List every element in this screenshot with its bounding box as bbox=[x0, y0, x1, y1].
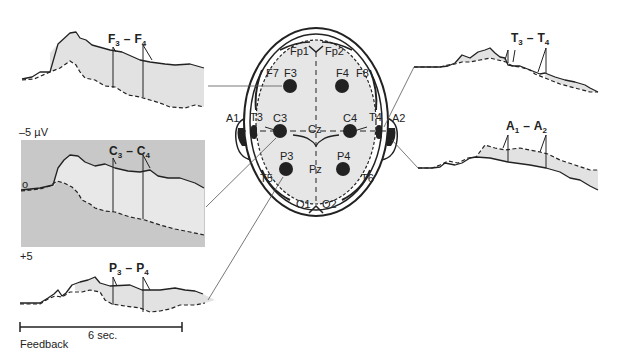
electrode-c3 bbox=[273, 124, 287, 138]
label-t5: T5 bbox=[260, 172, 273, 184]
trace-p3-p4: P3–P4 bbox=[20, 261, 215, 312]
label-o1: O1 bbox=[296, 198, 311, 210]
label-pz: Pz bbox=[309, 163, 322, 175]
label-t6: T6 bbox=[361, 172, 374, 184]
timescale-bar: 6 sec. Feedback bbox=[20, 322, 182, 350]
trace-t3-t4: T3–T4 bbox=[414, 31, 598, 92]
label-o2: O2 bbox=[322, 198, 337, 210]
electrode-p4 bbox=[336, 162, 350, 176]
label-c3-c4: C3–C4 bbox=[109, 144, 150, 160]
label-c3: C3 bbox=[273, 112, 287, 124]
label-f8: F8 bbox=[356, 67, 369, 79]
label-f7: F7 bbox=[266, 67, 279, 79]
label-p3: P3 bbox=[280, 150, 293, 162]
trace-f3-f4: F3–F4 bbox=[22, 32, 204, 108]
feedback-caption: Feedback bbox=[20, 338, 69, 350]
electrode-f3 bbox=[283, 79, 297, 93]
y-axis-zero-label: o bbox=[22, 178, 28, 190]
trace-c3-c4: C3–C4 –5 µV o +5 bbox=[19, 126, 205, 262]
electrode-f4 bbox=[335, 79, 349, 93]
label-p3-p4: P3–P4 bbox=[109, 261, 149, 277]
electrode-c4 bbox=[343, 124, 357, 138]
label-a1-a2: A1–A2 bbox=[506, 119, 547, 135]
head-diagram: Fp1 Fp2 F7 F3 F4 F8 A1 T3 C3 Cz C4 T4 A2… bbox=[226, 28, 405, 216]
eeg-feedback-diagram: F3–F4 C3–C4 –5 µV o +5 P3–P4 6 sec. Feed… bbox=[0, 0, 620, 359]
label-fp1: Fp1 bbox=[290, 45, 309, 57]
label-a1: A1 bbox=[226, 112, 239, 124]
y-axis-top-label: –5 µV bbox=[19, 126, 49, 138]
label-a2: A2 bbox=[392, 112, 405, 124]
label-t4: T4 bbox=[369, 111, 382, 123]
label-fp2: Fp2 bbox=[325, 45, 344, 57]
timescale-label: 6 sec. bbox=[88, 329, 117, 341]
label-cz: Cz bbox=[308, 123, 321, 135]
trace-a1-a2: A1–A2 bbox=[418, 119, 598, 190]
electrode-p3 bbox=[279, 162, 293, 176]
label-p4: P4 bbox=[337, 150, 350, 162]
label-t3: T3 bbox=[250, 111, 263, 123]
label-f3-f4: F3–F4 bbox=[108, 32, 147, 48]
label-f3: F3 bbox=[284, 67, 297, 79]
label-c4: C4 bbox=[343, 112, 357, 124]
label-t3-t4: T3–T4 bbox=[511, 31, 550, 47]
label-f4: F4 bbox=[336, 67, 349, 79]
y-axis-bottom-label: +5 bbox=[20, 250, 33, 262]
